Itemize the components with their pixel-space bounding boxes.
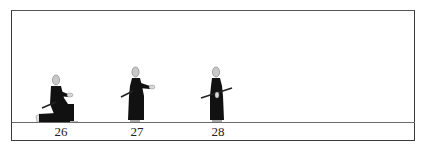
- figure-number-28: 28: [203, 124, 233, 139]
- kneeling-figure-icon: [34, 74, 84, 124]
- figure-number-27: 27: [122, 124, 152, 139]
- standing-figure-icon: [200, 66, 240, 124]
- figure-number-26: 26: [46, 124, 76, 139]
- figure-28: [200, 66, 240, 124]
- standing-figure-icon: [120, 66, 160, 124]
- figure-26: [34, 74, 84, 124]
- figure-27: [120, 66, 160, 124]
